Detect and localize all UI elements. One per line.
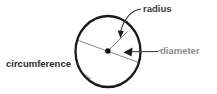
label-radius: radius [143,4,172,14]
label-diameter: diameter [160,46,200,56]
radius-arrowhead-icon [118,31,124,39]
label-circumference: circumference [6,59,71,69]
circle-diagram: radius diameter circumference [0,0,217,94]
diameter-arrowhead-icon [124,48,133,57]
radius-line [108,32,128,52]
center-dot-icon [105,48,110,53]
